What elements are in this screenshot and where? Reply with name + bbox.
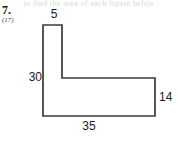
- l-shape-outline: [43, 25, 155, 116]
- figure-page: to find the area of each figure below 7.…: [0, 0, 178, 141]
- dimension-label-left: 30: [24, 71, 42, 84]
- dimension-label-bottom: 35: [78, 120, 100, 133]
- dimension-label-top: 5: [44, 8, 64, 21]
- dimension-label-right: 14: [159, 91, 177, 104]
